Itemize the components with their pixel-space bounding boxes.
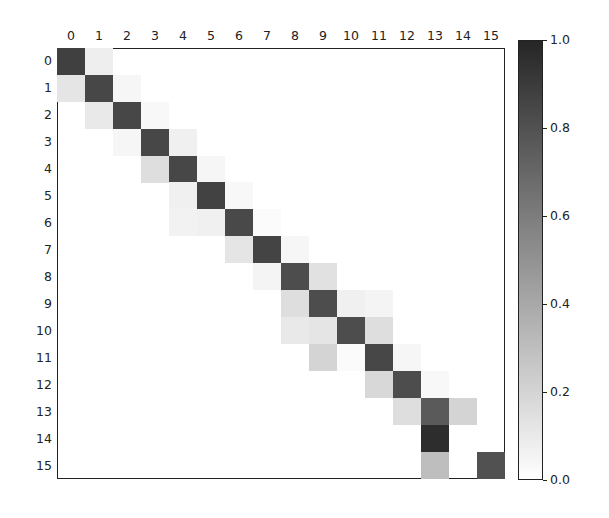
x-tick-label: 4 — [169, 28, 197, 43]
y-tick-label: 2 — [10, 107, 52, 122]
heatmap-cell — [197, 156, 225, 183]
heatmap-cell — [85, 75, 113, 102]
heatmap-cell — [253, 209, 281, 236]
colorbar-tick-mark — [543, 304, 547, 305]
colorbar-tick-label: 1.0 — [550, 32, 570, 47]
colorbar-tick-mark — [543, 40, 547, 41]
heatmap-cell — [57, 75, 85, 102]
colorbar-tick-label: 0.4 — [550, 296, 570, 311]
y-tick-label: 15 — [10, 458, 52, 473]
heatmap-cell — [57, 48, 85, 75]
x-tick-label: 11 — [365, 28, 393, 43]
colorbar-tick-mark — [543, 480, 547, 481]
heatmap-cell — [421, 452, 449, 479]
heatmap-cell — [421, 425, 449, 452]
y-tick-label: 9 — [10, 296, 52, 311]
colorbar-tick-label: 0.6 — [550, 208, 570, 223]
y-tick-label: 0 — [10, 53, 52, 68]
x-tick-label: 15 — [477, 28, 505, 43]
heatmap-cell — [169, 156, 197, 183]
heatmap-cell — [113, 75, 141, 102]
heatmap-cell — [365, 290, 393, 317]
y-tick-label: 8 — [10, 269, 52, 284]
heatmap-cell — [197, 182, 225, 209]
heatmap-cell — [169, 209, 197, 236]
colorbar — [518, 40, 543, 480]
heatmap-cell — [393, 398, 421, 425]
heatmap-cell — [337, 317, 365, 344]
heatmap-cell — [113, 102, 141, 129]
y-tick-label: 12 — [10, 377, 52, 392]
x-tick-label: 2 — [113, 28, 141, 43]
heatmap-cell — [281, 317, 309, 344]
heatmap-cell — [309, 344, 337, 371]
heatmap-cell — [449, 398, 477, 425]
x-tick-label: 12 — [393, 28, 421, 43]
heatmap-cell — [393, 371, 421, 398]
colorbar-tick-label: 0.2 — [550, 384, 570, 399]
heatmap-cell — [421, 398, 449, 425]
heatmap-cell — [477, 452, 505, 479]
heatmap-cell — [169, 182, 197, 209]
heatmap-cell — [169, 129, 197, 156]
heatmap-cell — [141, 102, 169, 129]
y-tick-label: 4 — [10, 161, 52, 176]
heatmap-plot-area — [57, 48, 505, 479]
y-tick-label: 6 — [10, 215, 52, 230]
heatmap-cell — [309, 290, 337, 317]
colorbar-tick-label: 0.0 — [550, 472, 570, 487]
x-tick-label: 10 — [337, 28, 365, 43]
heatmap-cell — [85, 48, 113, 75]
colorbar-tick-mark — [543, 392, 547, 393]
x-tick-label: 0 — [57, 28, 85, 43]
heatmap-cell — [365, 371, 393, 398]
heatmap-cell — [309, 263, 337, 290]
x-tick-label: 13 — [421, 28, 449, 43]
heatmap-cell — [337, 290, 365, 317]
x-tick-label: 1 — [85, 28, 113, 43]
heatmap-cell — [393, 344, 421, 371]
x-tick-label: 9 — [309, 28, 337, 43]
heatmap-cell — [113, 129, 141, 156]
y-tick-label: 1 — [10, 80, 52, 95]
heatmap-cell — [197, 209, 225, 236]
heatmap-cell — [281, 263, 309, 290]
heatmap-cell — [85, 102, 113, 129]
y-tick-label: 14 — [10, 431, 52, 446]
x-tick-label: 3 — [141, 28, 169, 43]
heatmap-cell — [225, 209, 253, 236]
heatmap-cell — [421, 371, 449, 398]
x-tick-label: 8 — [281, 28, 309, 43]
x-tick-label: 14 — [449, 28, 477, 43]
colorbar-tick-label: 0.8 — [550, 120, 570, 135]
y-tick-label: 7 — [10, 242, 52, 257]
heatmap-cell — [281, 290, 309, 317]
heatmap-cell — [141, 129, 169, 156]
y-tick-label: 13 — [10, 404, 52, 419]
heatmap-cell — [253, 263, 281, 290]
heatmap-cell — [281, 236, 309, 263]
y-tick-label: 10 — [10, 323, 52, 338]
heatmap-cell — [365, 344, 393, 371]
colorbar-tick-mark — [543, 216, 547, 217]
heatmap-cell — [365, 317, 393, 344]
x-tick-label: 7 — [253, 28, 281, 43]
y-tick-label: 11 — [10, 350, 52, 365]
y-tick-label: 3 — [10, 134, 52, 149]
heatmap-cell — [337, 344, 365, 371]
colorbar-tick-mark — [543, 128, 547, 129]
y-tick-label: 5 — [10, 188, 52, 203]
heatmap-cell — [225, 236, 253, 263]
heatmap-cell — [309, 317, 337, 344]
heatmap-cell — [253, 236, 281, 263]
heatmap-cell — [141, 156, 169, 183]
heatmap-cell — [225, 182, 253, 209]
x-tick-label: 6 — [225, 28, 253, 43]
x-tick-label: 5 — [197, 28, 225, 43]
